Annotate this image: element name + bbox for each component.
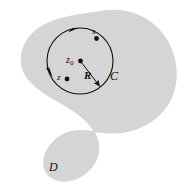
- point-z0-marker: [78, 59, 83, 64]
- label-R: R: [83, 69, 91, 81]
- label-z: z: [56, 72, 61, 82]
- label-s: s: [92, 26, 96, 36]
- label-C: C: [110, 69, 119, 83]
- figure-container: z0 z s R C D: [0, 0, 190, 194]
- complex-analysis-figure: z0 z s R C D: [0, 0, 190, 194]
- label-z0-subscript: 0: [70, 59, 74, 67]
- label-D: D: [48, 160, 58, 174]
- point-s-marker: [94, 36, 99, 41]
- point-z-marker: [65, 77, 70, 82]
- domain-region: [21, 10, 176, 181]
